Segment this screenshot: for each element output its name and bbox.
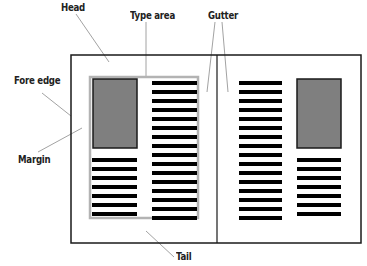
text-line: [152, 90, 197, 94]
text-line: [152, 117, 197, 121]
text-line: [152, 144, 197, 148]
text-line: [152, 81, 197, 85]
text-line: [239, 162, 282, 166]
fore-edge-leader: [42, 93, 71, 116]
text-column: [239, 81, 282, 220]
text-line: [152, 108, 197, 112]
text-line: [239, 153, 282, 157]
label-head: Head: [61, 1, 85, 13]
image-placeholder: [93, 79, 137, 148]
text-line: [152, 180, 197, 184]
text-line: [239, 198, 282, 202]
text-line: [152, 216, 197, 220]
tail-leader: [146, 231, 174, 257]
text-line: [239, 207, 282, 211]
text-line: [239, 144, 282, 148]
text-line: [92, 176, 137, 180]
label-type-area: Type area: [130, 9, 175, 21]
gutter-leader-left: [207, 22, 215, 92]
text-column: [297, 158, 341, 216]
text-line: [152, 207, 197, 211]
text-line: [152, 171, 197, 175]
text-line: [239, 135, 282, 139]
text-line: [297, 158, 341, 162]
text-line: [152, 126, 197, 130]
text-line: [297, 185, 341, 189]
label-tail: Tail: [176, 250, 192, 262]
text-line: [152, 198, 197, 202]
text-line: [239, 99, 282, 103]
text-line: [239, 108, 282, 112]
label-fore-edge: Fore edge: [14, 74, 60, 86]
text-line: [92, 158, 137, 162]
right-page: [239, 79, 341, 220]
text-line: [297, 203, 341, 207]
text-line: [297, 194, 341, 198]
label-gutter: Gutter: [208, 9, 238, 21]
text-line: [239, 180, 282, 184]
text-line: [239, 81, 282, 85]
text-line: [152, 135, 197, 139]
text-line: [239, 216, 282, 220]
gutter-leader-right: [222, 22, 228, 92]
image-placeholder: [297, 79, 341, 148]
label-margin: Margin: [18, 153, 50, 165]
text-line: [152, 153, 197, 157]
text-line: [239, 126, 282, 130]
text-line: [239, 117, 282, 121]
text-line: [239, 171, 282, 175]
margin-leader: [38, 128, 82, 152]
text-line: [152, 162, 197, 166]
text-line: [92, 194, 137, 198]
text-line: [92, 185, 137, 189]
text-line: [92, 167, 137, 171]
text-line: [92, 212, 137, 216]
text-line: [297, 176, 341, 180]
text-line: [297, 212, 341, 216]
text-line: [152, 189, 197, 193]
text-line: [239, 90, 282, 94]
page-layout-diagram: [0, 0, 367, 266]
text-line: [239, 189, 282, 193]
text-line: [297, 167, 341, 171]
text-line: [92, 203, 137, 207]
text-line: [152, 99, 197, 103]
